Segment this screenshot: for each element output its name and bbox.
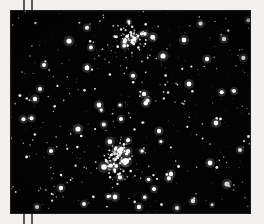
image-canvas — [0, 0, 264, 224]
astronomical-photograph — [11, 11, 250, 213]
plate-edge-top — [11, 11, 250, 12]
crop-tick-bottom-left-a — [23, 212, 25, 224]
plate-edge-left — [11, 11, 12, 213]
star-field-scatter — [11, 11, 250, 213]
crop-tick-bottom-left-b — [31, 212, 33, 224]
